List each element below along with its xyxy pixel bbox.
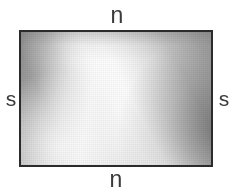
pole-label-right-south: s <box>215 88 233 109</box>
bar-magnet-rectangle <box>19 30 213 167</box>
magnet-diagram-canvas: n n s s <box>0 0 236 187</box>
magnet-fill-grain-texture <box>21 32 211 165</box>
pole-label-left-south: s <box>2 88 20 109</box>
pole-label-top-north: n <box>105 4 129 27</box>
pole-label-bottom-north: n <box>104 168 128 187</box>
